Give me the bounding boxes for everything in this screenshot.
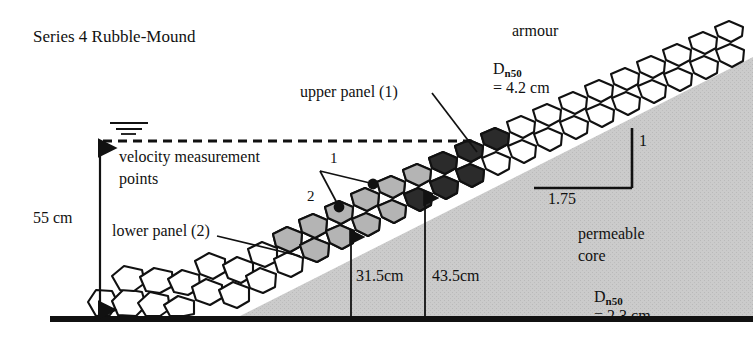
upper-depth-label: 43.5cm [432,267,480,285]
armour-d-value: = 4.2 cm [493,79,550,96]
velocity-point-2-label: 2 [307,188,315,205]
velocity-point-1-label: 1 [330,150,338,167]
core-label-line1: permeable [578,225,645,243]
slope-run-label: 1.75 [548,190,576,208]
core-d-subscript: n50 [606,295,623,307]
velocity-label-line1: velocity measurement [119,148,260,166]
total-depth-label: 55 cm [33,209,73,227]
core-label-line2: core [578,247,606,265]
core-dn50-label: Dn50 = 2.3 cm [578,270,651,343]
armour-label: armour [512,22,558,40]
upper-panel-label: upper panel (1) [300,83,398,101]
velocity-label-line2: points [119,170,158,188]
armour-d-subscript: n50 [505,67,522,79]
armour-dn50-label: Dn50 = 4.2 cm [477,42,550,115]
page-title: Series 4 Rubble-Mound [33,27,195,46]
velocity-point-1-dot [368,179,379,190]
water-surface-symbol [110,123,148,134]
figure-canvas: Series 4 Rubble-Mound armour Dn50 = 4.2 … [0,0,753,347]
velocity-point-2-dot [334,202,345,213]
lower-panel-label: lower panel (2) [112,222,210,240]
core-d-symbol: D [594,288,606,305]
lower-depth-label: 31.5cm [356,267,404,285]
upper-panel-leader [432,93,477,152]
core-d-value: = 2.3 cm [594,307,651,324]
armour-d-symbol: D [493,60,505,77]
slope-rise-label: 1 [639,132,647,150]
